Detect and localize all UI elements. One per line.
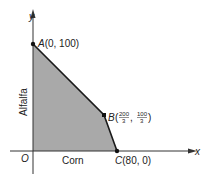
point-b-y-numerator: 100 [137,111,148,117]
point-c-label: C(80, 0) [115,155,151,166]
x-axis-title: Corn [62,155,84,166]
svg-text:): ) [148,112,151,123]
feasible-region-diagram: y x O Corn Alfalfa A(0, 100) B ( 200 3 ,… [0,0,207,181]
y-axis-title: Alfalfa [18,88,29,116]
origin-label: O [21,153,29,164]
point-c-coords: (80, 0) [122,155,151,166]
point-b-marker [102,113,106,117]
point-a-label: A(0, 100) [37,38,79,49]
point-c-marker [115,149,119,153]
svg-text:,: , [130,112,133,123]
point-a-marker [31,42,35,46]
y-axis-label: y [28,11,35,22]
point-b-x-denominator: 3 [122,118,126,124]
point-b-x-numerator: 200 [119,111,130,117]
feasible-region [33,44,117,151]
point-b-y-denominator: 3 [140,118,144,124]
point-b-label: B ( 200 3 , 100 3 ) [108,111,151,124]
point-b-name: B [108,112,115,123]
point-a-coords: (0, 100) [45,38,79,49]
x-axis-label: x [194,146,201,157]
